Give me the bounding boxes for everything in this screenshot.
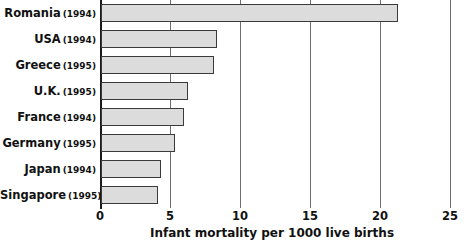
country-year: (1995) bbox=[63, 61, 96, 71]
bar-japan bbox=[101, 160, 161, 178]
bar-greece bbox=[101, 56, 214, 74]
category-label-romania: Romania(1994) bbox=[0, 0, 96, 26]
country-year: (1994) bbox=[63, 35, 96, 45]
country-year: (1995) bbox=[68, 191, 101, 201]
bar-uk bbox=[101, 82, 188, 100]
bar-row: U.K.(1995) bbox=[0, 78, 470, 104]
category-label-japan: Japan(1994) bbox=[0, 156, 96, 182]
category-label-usa: USA(1994) bbox=[0, 26, 96, 52]
country-name: Germany bbox=[2, 136, 60, 150]
x-tick-25: 25 bbox=[430, 209, 470, 223]
bar-romania bbox=[101, 4, 398, 22]
category-label-germany: Germany(1995) bbox=[0, 130, 96, 156]
category-label-uk: U.K.(1995) bbox=[0, 78, 96, 104]
bar-row: Germany(1995) bbox=[0, 130, 470, 156]
category-label-singapore: Singapore(1995) bbox=[0, 182, 96, 208]
bar-usa bbox=[101, 30, 217, 48]
x-axis-title: Infant mortality per 1000 live births bbox=[0, 226, 470, 240]
bar-singapore bbox=[101, 186, 158, 204]
country-name: U.K. bbox=[34, 84, 61, 98]
country-year: (1995) bbox=[63, 87, 96, 97]
country-year: (1995) bbox=[63, 139, 96, 149]
category-label-france: France(1994) bbox=[0, 104, 96, 130]
bar-row: Greece(1995) bbox=[0, 52, 470, 78]
country-year: (1994) bbox=[63, 113, 96, 123]
x-tick-5: 5 bbox=[150, 209, 190, 223]
country-year: (1994) bbox=[63, 165, 96, 175]
country-year: (1994) bbox=[63, 9, 96, 19]
category-label-greece: Greece(1995) bbox=[0, 52, 96, 78]
bar-france bbox=[101, 108, 184, 126]
country-name: USA bbox=[34, 32, 61, 46]
x-tick-10: 10 bbox=[220, 209, 260, 223]
country-name: Singapore bbox=[0, 188, 66, 202]
bar-row: Singapore(1995) bbox=[0, 182, 470, 208]
x-tick-20: 20 bbox=[360, 209, 400, 223]
bar-row: France(1994) bbox=[0, 104, 470, 130]
bar-row: Romania(1994) bbox=[0, 0, 470, 26]
infant-mortality-bar-chart: Romania(1994)USA(1994)Greece(1995)U.K.(1… bbox=[0, 0, 470, 247]
country-name: Japan bbox=[25, 162, 61, 176]
x-tick-15: 15 bbox=[290, 209, 330, 223]
bar-row: Japan(1994) bbox=[0, 156, 470, 182]
country-name: France bbox=[17, 110, 60, 124]
country-name: Romania bbox=[4, 6, 60, 20]
country-name: Greece bbox=[15, 58, 60, 72]
bar-row: USA(1994) bbox=[0, 26, 470, 52]
bar-germany bbox=[101, 134, 175, 152]
x-tick-0: 0 bbox=[80, 209, 120, 223]
